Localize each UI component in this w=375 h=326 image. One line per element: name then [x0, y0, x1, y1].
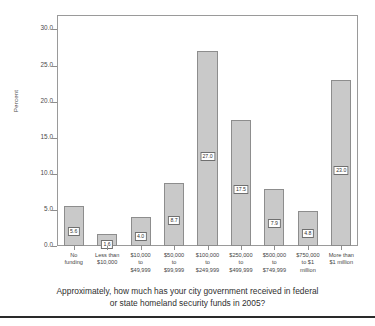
y-axis-tick-label: 0.0: [13, 241, 53, 251]
x-axis-tick-mark: [141, 246, 142, 250]
caption-line-1: Approximately, how much has your city go…: [57, 286, 319, 296]
bar-value-label: 27.0: [200, 152, 215, 161]
bar: [197, 51, 217, 246]
chart-figure: Percent 0.05.010.015.020.025.030.0 5.61.…: [0, 0, 375, 326]
bar: [331, 80, 351, 246]
bar-value-label: 8.7: [168, 216, 180, 225]
y-axis-tick-label: 10.0: [13, 169, 53, 179]
x-axis-tick-mark: [274, 246, 275, 250]
chart-caption: Approximately, how much has your city go…: [22, 286, 353, 309]
y-axis-tick-label: 25.0: [13, 61, 53, 71]
x-axis-tick-mark: [174, 246, 175, 250]
caption-line-2: or state homeland security funds in 2005…: [110, 298, 266, 308]
bar-value-label: 7.9: [268, 219, 280, 228]
bar-value-label: 5.6: [68, 227, 80, 236]
x-axis-tick-mark: [74, 246, 75, 250]
bar-value-label: 4.8: [302, 229, 314, 238]
y-axis-tick-label: 15.0: [13, 133, 53, 143]
bar: [264, 189, 284, 246]
x-axis-tick-mark: [241, 246, 242, 250]
x-axis-tick-mark: [308, 246, 309, 250]
x-axis-tick-mark: [107, 246, 108, 250]
y-axis-tick-label: 5.0: [13, 205, 53, 215]
x-axis-tick-mark: [341, 246, 342, 250]
bottom-divider: [0, 316, 375, 318]
bar-value-label: 4.0: [135, 232, 147, 241]
y-axis-tick-label: 20.0: [13, 97, 53, 107]
x-axis-tick-mark: [208, 246, 209, 250]
bar: [231, 120, 251, 246]
y-axis-tick-label: 30.0: [13, 24, 53, 34]
bar: [164, 183, 184, 246]
x-axis-category-label: More than $1 million: [320, 252, 362, 267]
bar-value-label: 23.0: [334, 166, 349, 175]
bar-value-label: 17.5: [233, 185, 248, 194]
y-axis-tick-mark: [52, 246, 57, 247]
